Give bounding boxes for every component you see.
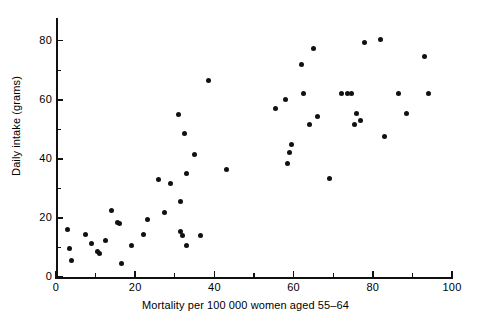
data-point xyxy=(224,167,229,172)
data-point xyxy=(315,114,320,119)
data-point xyxy=(396,91,401,96)
data-point xyxy=(117,221,122,226)
data-point xyxy=(339,91,344,96)
data-point xyxy=(362,40,367,45)
x-tick-label: 60 xyxy=(279,281,309,293)
x-tick-label: 40 xyxy=(199,281,229,293)
data-point xyxy=(301,91,306,96)
data-point xyxy=(426,91,431,96)
data-point xyxy=(287,150,292,155)
data-point xyxy=(299,62,304,67)
x-tick-label: 0 xyxy=(41,281,71,293)
data-point xyxy=(192,152,197,157)
data-point xyxy=(382,134,387,139)
x-axis-line xyxy=(55,277,453,279)
data-point xyxy=(83,232,88,237)
data-point xyxy=(168,181,173,186)
data-point xyxy=(184,243,189,248)
scatter-plot-figure: 020406080020406080100 Mortality per 100 … xyxy=(0,0,491,323)
data-point xyxy=(69,258,74,263)
data-point xyxy=(349,91,354,96)
y-tick-label: 40 xyxy=(26,152,52,164)
data-point xyxy=(119,261,124,266)
data-point xyxy=(422,54,427,59)
data-point xyxy=(109,208,114,213)
data-point xyxy=(89,241,94,246)
data-point xyxy=(378,37,383,42)
data-point xyxy=(289,142,294,147)
data-point xyxy=(358,118,363,123)
y-tick-label: 60 xyxy=(26,93,52,105)
plot-data-area xyxy=(56,20,452,277)
data-point xyxy=(67,246,72,251)
data-point xyxy=(103,238,108,243)
data-point xyxy=(354,111,359,116)
data-point xyxy=(65,227,70,232)
data-point xyxy=(145,217,150,222)
data-point xyxy=(283,97,288,102)
y-tick-label: 20 xyxy=(26,211,52,223)
data-point xyxy=(97,251,102,256)
data-point xyxy=(176,112,181,117)
x-tick-label: 100 xyxy=(437,281,467,293)
y-axis-title: Daily intake (grams) xyxy=(10,36,22,216)
x-tick-label: 80 xyxy=(358,281,388,293)
data-point xyxy=(129,243,134,248)
data-point xyxy=(184,171,189,176)
data-point xyxy=(180,233,185,238)
data-point xyxy=(273,106,278,111)
data-point xyxy=(178,199,183,204)
data-point xyxy=(156,177,161,182)
data-point xyxy=(311,46,316,51)
data-point xyxy=(352,122,357,127)
data-point xyxy=(182,131,187,136)
x-axis-title: Mortality per 100 000 women aged 55–64 xyxy=(0,299,491,311)
x-tick-label: 20 xyxy=(120,281,150,293)
data-point xyxy=(206,78,211,83)
data-point xyxy=(198,233,203,238)
y-tick-label: 80 xyxy=(26,34,52,46)
data-point xyxy=(285,161,290,166)
data-point xyxy=(404,111,409,116)
data-point xyxy=(307,122,312,127)
data-point xyxy=(162,210,167,215)
data-point xyxy=(327,176,332,181)
data-point xyxy=(141,232,146,237)
